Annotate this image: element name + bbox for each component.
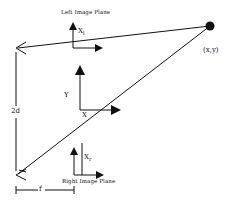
left-axis-label: Xl	[78, 28, 85, 36]
world-y-label: Y	[64, 92, 69, 99]
diagram-graphics	[0, 0, 229, 202]
left-image-plane-label: Left Image Plane	[61, 10, 110, 16]
stereo-diagram: Left Image Plane Xl (x,y) Y X 2d Xr Righ…	[0, 0, 229, 202]
right-ray	[18, 26, 210, 174]
focal-length-label: f	[39, 186, 42, 193]
world-x-label: X	[82, 112, 87, 119]
baseline-label: 2d	[11, 108, 20, 115]
left-ray	[18, 26, 210, 48]
world-point-dot	[206, 22, 215, 31]
right-camera-icon	[16, 169, 26, 180]
right-image-plane-label: Right Image Plane	[62, 179, 115, 185]
right-axis-label: Xr	[84, 154, 91, 162]
point-label: (x,y)	[203, 47, 219, 54]
